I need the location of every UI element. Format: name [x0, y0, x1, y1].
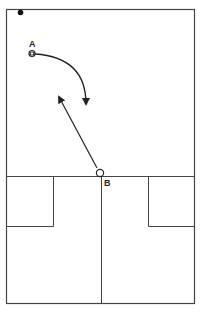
player-a-cut-arrow	[35, 54, 86, 104]
right-box	[149, 176, 196, 227]
player-a-label: A	[29, 40, 36, 49]
left-box	[6, 176, 54, 227]
player-b-label: B	[104, 179, 111, 188]
player-a-marker	[29, 51, 35, 57]
player-b-move-arrow	[59, 97, 97, 168]
player-b-marker	[96, 169, 103, 176]
ball-icon	[18, 10, 24, 16]
